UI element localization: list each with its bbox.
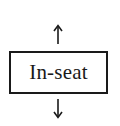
arrow-down-icon	[50, 98, 66, 119]
arrow-up-icon	[50, 24, 66, 45]
node-label: In-seat	[29, 60, 88, 85]
in-seat-node: In-seat	[9, 51, 108, 94]
